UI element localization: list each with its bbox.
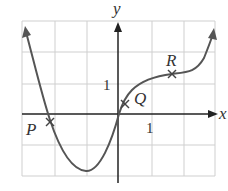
y-axis-label: y [113, 0, 121, 17]
axes [22, 22, 218, 183]
x-axis-label: x [219, 105, 227, 122]
point-markers [46, 70, 176, 126]
function-curve [26, 32, 213, 171]
y-tick-label: 1 [103, 78, 111, 93]
curve-arrow-right-icon [208, 28, 217, 40]
point-q-label: Q [134, 90, 146, 107]
point-p-label: P [26, 121, 36, 138]
curve-arrow-left-icon [22, 26, 31, 38]
y-axis-arrow-icon [114, 22, 122, 32]
graph-canvas [0, 0, 228, 191]
point-r-label: R [166, 52, 176, 69]
x-tick-label: 1 [146, 121, 154, 136]
x-axis-arrow-icon [208, 110, 218, 118]
